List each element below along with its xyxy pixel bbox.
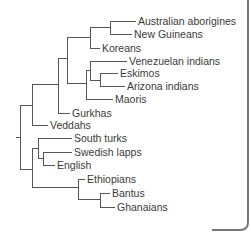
leaf-label: Maoris <box>115 93 147 105</box>
leaf-label: Swedish lapps <box>74 146 142 158</box>
leaf-label: South turks <box>74 132 127 144</box>
leaf-label: Bantus <box>112 187 145 199</box>
leaf-label: Veddahs <box>50 119 91 131</box>
leaf-label: Gurkhas <box>72 107 112 119</box>
leaf-label: Koreans <box>102 42 141 54</box>
leaf-label: Eskimos <box>120 67 160 79</box>
leaf-label: English <box>57 159 92 171</box>
leaf-label: Venezuelan indians <box>129 55 220 67</box>
leaf-label: Ethiopians <box>87 173 136 185</box>
frame-border <box>212 0 248 230</box>
leaf-label: Ghanaians <box>117 201 168 213</box>
leaf-label: Arizona indians <box>127 80 199 92</box>
leaf-label: New Guineans <box>134 28 203 40</box>
leaf-label: Australian aborigines <box>138 15 236 27</box>
phylogenetic-tree: Australian aborigines New Guineans Korea… <box>0 0 251 235</box>
